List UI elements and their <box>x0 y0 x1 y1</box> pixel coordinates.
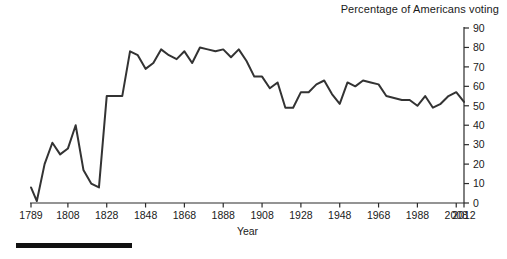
y-tick-label: 10 <box>473 177 485 189</box>
x-tick-label: 1868 <box>173 209 197 221</box>
x-tick-label: 1848 <box>134 209 158 221</box>
x-tick-label: 1808 <box>56 209 80 221</box>
series-line <box>31 47 464 201</box>
data-series-group <box>31 47 464 201</box>
y-tick-label: 30 <box>473 138 485 150</box>
chart-figure: Percentage of Americans voting 178918081… <box>0 0 507 259</box>
x-tick-label: 1828 <box>95 209 119 221</box>
x-tick-label: 1968 <box>367 209 391 221</box>
line-chart-plot: 1789180818281848186818881908192819481968… <box>0 0 507 259</box>
y-tick-label: 0 <box>473 197 479 209</box>
y-axis: 0102030405060708090 <box>464 22 485 209</box>
scale-bar <box>16 243 132 248</box>
x-tick-label: 1928 <box>289 209 313 221</box>
x-tick-label: 2012 <box>452 209 476 221</box>
x-tick-label: 1948 <box>328 209 352 221</box>
x-tick-label: 1908 <box>250 209 274 221</box>
y-tick-label: 40 <box>473 119 485 131</box>
y-tick-label: 90 <box>473 22 485 34</box>
x-tick-label: 1789 <box>19 209 43 221</box>
x-axis-title: Year <box>237 225 259 237</box>
y-tick-label: 60 <box>473 80 485 92</box>
x-tick-label: 1988 <box>406 209 430 221</box>
y-tick-label: 20 <box>473 158 485 170</box>
y-tick-label: 80 <box>473 41 485 53</box>
y-tick-label: 70 <box>473 61 485 73</box>
x-axis: 1789180818281848186818881908192819481968… <box>19 203 476 221</box>
y-tick-label: 50 <box>473 100 485 112</box>
x-tick-label: 1888 <box>212 209 236 221</box>
axis-titles: Year <box>237 225 259 237</box>
